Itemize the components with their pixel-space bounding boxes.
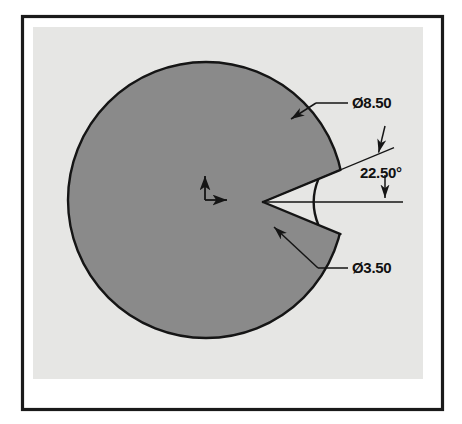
drawing-page: 22.50° Ø8.50 Ø3.50 xyxy=(0,0,462,424)
inner-diameter-label: Ø3.50 xyxy=(352,259,391,276)
angular-dimension-label: 22.50° xyxy=(360,164,402,181)
outer-diameter-label: Ø8.50 xyxy=(352,94,391,111)
technical-drawing-canvas: 22.50° Ø8.50 Ø3.50 xyxy=(0,0,462,424)
